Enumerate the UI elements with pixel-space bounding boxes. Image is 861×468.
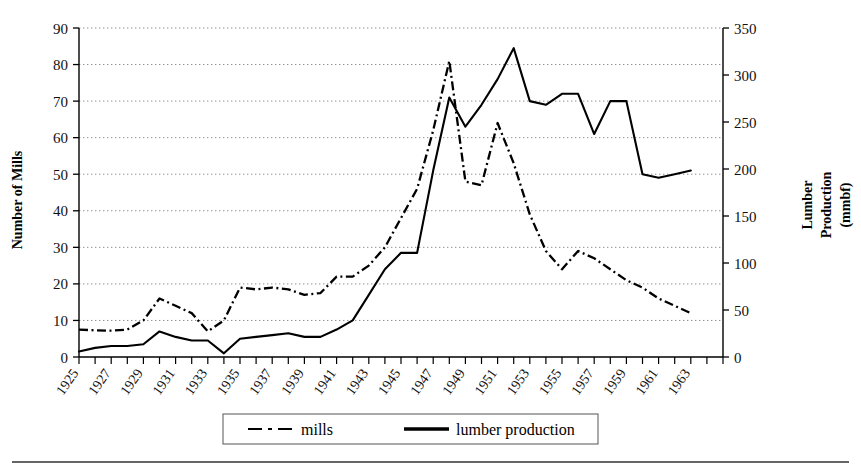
right-tick-label-0: 0: [734, 350, 742, 366]
left-tick-label-40: 40: [53, 203, 68, 219]
right-tick-label-100: 100: [734, 256, 757, 272]
left-axis-title-text: Number of Mills: [10, 150, 25, 249]
left-tick-label-10: 10: [53, 313, 68, 329]
right-tick-label-200: 200: [734, 162, 757, 178]
right-axis-title-line3: (mmbf): [838, 182, 854, 227]
left-tick-label-0: 0: [61, 350, 69, 366]
left-tick-label-20: 20: [53, 276, 68, 292]
left-tick-label-80: 80: [53, 57, 68, 73]
x-axis-ticks: [79, 357, 723, 364]
left-tick-label-60: 60: [53, 130, 68, 146]
dual-axis-line-chart: 0102030405060708090 05010015020025030035…: [0, 0, 861, 468]
right-axis-title-line1: Lumber: [800, 181, 815, 230]
right-tick-label-250: 250: [734, 115, 757, 131]
legend-label-lumber-production: lumber production: [456, 421, 575, 439]
right-tick-label-50: 50: [734, 303, 749, 319]
chart-figure: 0102030405060708090 05010015020025030035…: [0, 0, 861, 468]
right-axis-title-line2: Production: [819, 171, 834, 238]
legend-label-mills: mills: [301, 421, 333, 438]
chart-legend: mills lumber production: [223, 414, 598, 444]
left-axis-title: Number of Mills: [10, 150, 25, 249]
right-tick-label-150: 150: [734, 209, 757, 225]
left-tick-label-50: 50: [53, 167, 68, 183]
right-tick-label-300: 300: [734, 68, 757, 84]
right-tick-label-350: 350: [734, 21, 757, 37]
left-tick-label-70: 70: [53, 94, 68, 110]
left-tick-label-30: 30: [53, 240, 68, 256]
left-tick-label-90: 90: [53, 21, 68, 37]
